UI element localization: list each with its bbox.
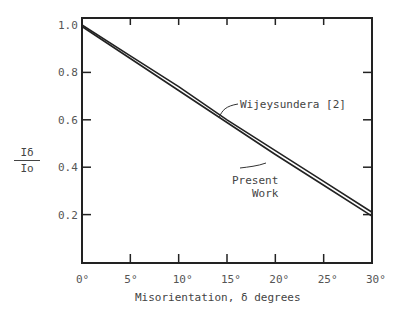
y-axis-ticks: 1.00.80.60.40.2 <box>58 19 372 222</box>
y-tick-label: 0.8 <box>58 66 78 79</box>
y-tick-label: 1.0 <box>58 19 78 32</box>
wijeysundera-label: Wijeysundera [2] <box>240 98 346 111</box>
x-tick-label: 10° <box>173 273 193 286</box>
present-work-line <box>82 27 372 217</box>
x-axis-ticks: 0°5°10°15°20°25°30° <box>76 18 386 286</box>
present-work-label-line2: Work <box>252 187 279 200</box>
x-tick-label: 5° <box>124 273 137 286</box>
present-work-label-line1: Present <box>232 174 278 187</box>
x-tick-label: 25° <box>318 273 338 286</box>
x-tick-label: 30° <box>366 273 386 286</box>
y-tick-label: 0.2 <box>58 209 78 222</box>
y-tick-label: 0.4 <box>58 161 78 174</box>
y-axis-label-denominator: Io <box>14 161 40 175</box>
y-axis-label: Iδ Io <box>14 146 40 175</box>
wijeysundera-line <box>82 25 372 212</box>
x-axis-label: Misorientation, δ degrees <box>135 291 301 304</box>
y-tick-label: 0.6 <box>58 114 78 127</box>
present-work-leader-line <box>240 163 266 168</box>
y-axis-label-numerator: Iδ <box>14 146 40 161</box>
x-tick-label: 20° <box>269 273 289 286</box>
x-tick-label: 0° <box>76 273 89 286</box>
chart-canvas: 0°5°10°15°20°25°30° 1.00.80.60.40.2 Wije… <box>0 0 398 325</box>
x-tick-label: 15° <box>221 273 241 286</box>
series-lines <box>82 25 372 216</box>
